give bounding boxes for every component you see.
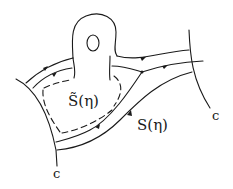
label-inner-region: S̃(η) bbox=[68, 92, 99, 110]
inner-dashed-bottom bbox=[62, 110, 112, 133]
handle-left-lower bbox=[73, 58, 75, 78]
inner-dashed-top-left bbox=[44, 80, 70, 88]
arrow-right-middle bbox=[162, 65, 168, 69]
junction-dot bbox=[141, 71, 144, 74]
right-band-middle bbox=[112, 61, 203, 72]
label-curve-left: c bbox=[53, 166, 60, 181]
right-boundary-curve-c bbox=[189, 30, 210, 108]
top-band-outer bbox=[26, 58, 73, 83]
handle-hole bbox=[87, 35, 99, 51]
right-band-top bbox=[117, 50, 189, 58]
surface-diagram: S̃(η) S(η) c c bbox=[0, 0, 233, 189]
bottom-band-outer bbox=[57, 72, 192, 150]
label-curve-right: c bbox=[212, 108, 219, 123]
top-band-inner bbox=[33, 68, 72, 88]
arrow-right-top bbox=[140, 57, 146, 61]
left-boundary-curve-c bbox=[16, 79, 57, 166]
inner-dashed-left bbox=[43, 90, 60, 132]
label-outer-region: S(η) bbox=[137, 116, 168, 134]
handle-outline bbox=[72, 14, 117, 58]
inner-dashed-right bbox=[114, 76, 121, 106]
